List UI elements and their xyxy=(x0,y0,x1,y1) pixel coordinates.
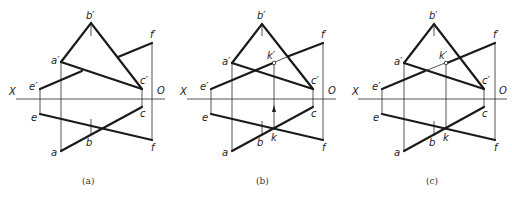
line-ef-top xyxy=(382,114,495,140)
line-ef-front-seg2 xyxy=(289,43,323,56)
point-k-prime xyxy=(444,61,448,65)
label-e-prime: e′ xyxy=(200,81,209,92)
label-k: k xyxy=(443,132,450,143)
label-a-prime: a′ xyxy=(51,55,60,66)
x-axis-label: X xyxy=(179,86,188,97)
label-f: f xyxy=(151,142,156,153)
label-c-prime: c′ xyxy=(140,75,148,86)
label-b: b xyxy=(257,137,263,148)
label-a-prime: a′ xyxy=(222,56,231,67)
line-ef-front-hidden xyxy=(425,63,445,71)
x-axis-label: X xyxy=(351,86,360,97)
point-k-prime xyxy=(272,61,276,65)
o-axis-label: O xyxy=(157,85,165,96)
label-c: c xyxy=(140,108,146,119)
label-e-prime: e′ xyxy=(29,81,38,92)
label-a: a xyxy=(222,147,228,158)
line-ef-front-seg2 xyxy=(447,43,495,63)
label-k: k xyxy=(271,132,278,143)
triangle-top-edge-ac xyxy=(61,107,142,151)
label-a-prime: a′ xyxy=(394,56,403,67)
label-a: a xyxy=(51,147,57,158)
label-c-prime: c′ xyxy=(311,75,319,86)
label-e: e xyxy=(373,112,379,123)
label-c: c xyxy=(311,108,317,119)
label-a: a xyxy=(394,147,400,158)
label-k-prime: k′ xyxy=(267,50,276,61)
caption-c: (c) xyxy=(426,176,438,186)
line-ef-front-seg1 xyxy=(382,71,425,89)
line-ef-top xyxy=(40,114,152,140)
projection-diagram: X O b′ a′ c′ e′ f′ e c a b f (a) X O xyxy=(0,0,512,197)
caption-a: (a) xyxy=(82,176,94,186)
line-ef-top xyxy=(211,114,323,140)
arrow-up-icon xyxy=(272,105,276,112)
label-b-prime: b′ xyxy=(257,10,266,21)
triangle-front-edge-ac xyxy=(404,63,484,89)
label-k-prime: k′ xyxy=(439,50,448,61)
o-axis-label: O xyxy=(328,85,336,96)
label-f-prime: f′ xyxy=(493,29,500,40)
panel-c: X O b′ a′ c′ e′ f′ k′ e c a b k f (c) xyxy=(351,10,507,186)
label-f: f xyxy=(494,142,499,153)
line-ef-front-seg2 xyxy=(118,43,152,57)
label-b: b xyxy=(86,137,92,148)
panel-b: X O b′ a′ c′ e′ f′ k′ e c a b k f (b) xyxy=(179,10,336,186)
triangle-front-edges-ab-bc xyxy=(61,23,142,89)
x-axis-label: X xyxy=(8,86,17,97)
label-e: e xyxy=(31,112,37,123)
label-c-prime: c′ xyxy=(482,75,490,86)
label-c: c xyxy=(482,108,488,119)
label-f-prime: f′ xyxy=(150,29,157,40)
label-f: f xyxy=(322,142,327,153)
triangle-top-edge-ac xyxy=(232,107,313,151)
label-e: e xyxy=(202,112,208,123)
line-ef-front-hidden xyxy=(275,56,289,62)
triangle-top-edge-ac xyxy=(404,107,484,151)
label-e-prime: e′ xyxy=(372,81,381,92)
o-axis-label: O xyxy=(499,85,507,96)
caption-b: (b) xyxy=(256,176,269,186)
label-b-prime: b′ xyxy=(86,10,95,21)
label-b-prime: b′ xyxy=(429,10,438,21)
label-f-prime: f′ xyxy=(321,29,328,40)
panel-a: X O b′ a′ c′ e′ f′ e c a b f (a) xyxy=(8,10,165,186)
label-b: b xyxy=(429,137,435,148)
